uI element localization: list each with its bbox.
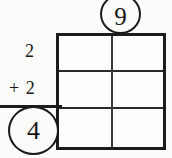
circled-answer-four[interactable]: 4 — [8, 106, 59, 155]
circled-answer-four-label: 4 — [27, 118, 40, 144]
circled-number-nine[interactable]: 9 — [100, 0, 141, 34]
addend-bottom-with-plus: + 2 — [9, 79, 36, 97]
circled-number-nine-label: 9 — [114, 4, 127, 29]
addition-worksheet: 9 2 + 2 4 — [0, 0, 172, 158]
answer-grid[interactable] — [56, 33, 166, 150]
grid-vertical-divider-1 — [111, 36, 113, 147]
addend-top: 2 — [25, 42, 34, 60]
